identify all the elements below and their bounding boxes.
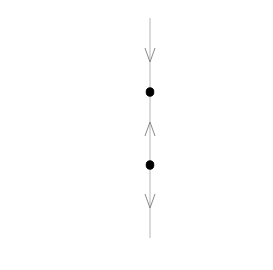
- equilibrium-point: [146, 88, 154, 96]
- phase-line-diagram: [0, 0, 273, 270]
- equilibrium-point: [146, 161, 154, 169]
